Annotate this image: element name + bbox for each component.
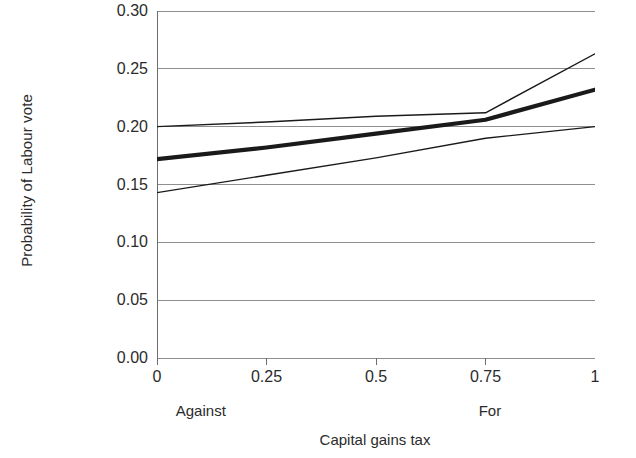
y-axis-tick-label: 0.10 bbox=[48, 234, 148, 250]
y-axis-tick-label: 0.00 bbox=[48, 350, 148, 366]
chart-figure: Probability of Labour vote 0.000.050.100… bbox=[0, 0, 636, 458]
y-axis-tick-label: 0.15 bbox=[48, 177, 148, 193]
y-axis-tick-label: 0.05 bbox=[48, 292, 148, 308]
y-axis-tick-label: 0.25 bbox=[48, 61, 148, 77]
x-axis-title: Capital gains tax bbox=[0, 431, 636, 448]
x-axis-title-text: Capital gains tax bbox=[320, 431, 431, 448]
x-axis-tick-label: 1 bbox=[591, 368, 600, 386]
x-axis-anchor-label: Against bbox=[176, 402, 226, 420]
x-axis-tick-label: 0.5 bbox=[365, 368, 387, 386]
x-axis-tick-marks bbox=[157, 358, 595, 365]
series-lines bbox=[157, 54, 595, 193]
gridlines bbox=[157, 11, 595, 358]
x-axis-anchor-label: For bbox=[479, 402, 502, 420]
y-axis-title: Probability of Labour vote bbox=[18, 61, 35, 301]
x-axis-tick-label: 0 bbox=[153, 368, 162, 386]
y-axis-tick-label: 0.20 bbox=[48, 119, 148, 135]
x-axis-tick-label: 0.25 bbox=[251, 368, 282, 386]
axis-lines bbox=[157, 11, 158, 358]
series-line bbox=[157, 127, 595, 193]
series-line bbox=[157, 54, 595, 127]
plot-area bbox=[157, 11, 595, 358]
plot-svg bbox=[157, 11, 595, 368]
x-axis-anchor-labels: AgainstFor bbox=[0, 402, 636, 424]
x-axis-tick-labels: 00.250.50.751 bbox=[0, 368, 636, 392]
x-axis-tick-label: 0.75 bbox=[470, 368, 501, 386]
y-axis-tick-label: 0.30 bbox=[48, 3, 148, 19]
